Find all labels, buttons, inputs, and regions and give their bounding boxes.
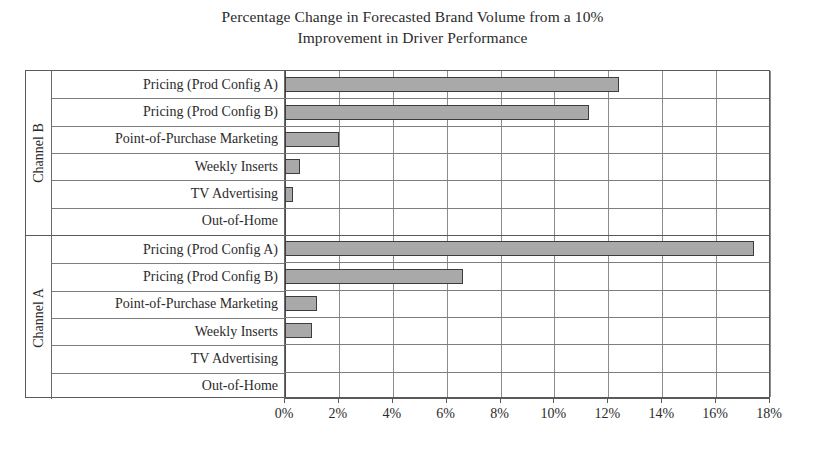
category-label: Point-of-Purchase Marketing	[115, 132, 278, 146]
row-separator	[52, 373, 284, 374]
category-labels-channel-a: Pricing (Prod Config A)Pricing (Prod Con…	[52, 235, 285, 399]
gridline-6%	[447, 71, 448, 397]
x-tick	[446, 398, 447, 403]
x-tick	[338, 398, 339, 403]
group-label-channel-a: Channel A	[26, 235, 52, 399]
row-separator	[52, 153, 284, 154]
category-label: Weekly Inserts	[195, 160, 278, 174]
row-separator	[52, 291, 284, 292]
x-tick-label: 4%	[382, 406, 401, 422]
x-tick-label: 10%	[541, 406, 567, 422]
gridline-2%	[339, 71, 340, 397]
x-tick	[661, 398, 662, 403]
x-tick-label: 0%	[275, 406, 294, 422]
category-label: Pricing (Prod Config A)	[143, 243, 278, 257]
row-separator	[285, 208, 769, 209]
x-tick-label: 2%	[329, 406, 348, 422]
gridline-14%	[662, 71, 663, 397]
row-separator	[52, 208, 284, 209]
group-label-text: Channel A	[31, 288, 47, 348]
x-axis-line	[284, 398, 770, 399]
bar	[285, 296, 317, 311]
group-label-text: Channel B	[31, 123, 47, 183]
x-tick	[715, 398, 716, 403]
row-separator	[285, 98, 769, 99]
bar	[285, 187, 293, 202]
x-tick-label: 6%	[436, 406, 455, 422]
row-separator	[285, 180, 769, 181]
chart-title-line-1: Percentage Change in Forecasted Brand Vo…	[0, 6, 825, 27]
row-separator	[52, 180, 284, 181]
gridline-0%	[285, 71, 286, 397]
row-separator	[52, 126, 284, 127]
x-tick-label: 18%	[756, 406, 782, 422]
chart-title-line-2: Improvement in Driver Performance	[0, 27, 825, 48]
x-tick-label: 12%	[594, 406, 620, 422]
gridline-4%	[393, 71, 394, 397]
gridline-12%	[608, 71, 609, 397]
category-labels-channel-b: Pricing (Prod Config A)Pricing (Prod Con…	[52, 71, 285, 235]
bar	[285, 241, 754, 256]
bar	[285, 323, 312, 338]
row-separator	[285, 290, 769, 291]
x-tick	[553, 398, 554, 403]
chart-plot-frame: Channel BChannel A Pricing (Prod Config …	[25, 70, 770, 398]
row-separator	[285, 153, 769, 154]
bar	[285, 77, 619, 92]
bar	[285, 269, 463, 284]
category-label: Point-of-Purchase Marketing	[115, 297, 278, 311]
row-separator	[285, 262, 769, 263]
x-tick	[500, 398, 501, 403]
x-tick	[607, 398, 608, 403]
x-tick	[769, 398, 770, 403]
category-label: Pricing (Prod Config B)	[143, 270, 278, 284]
plot-area	[285, 71, 769, 397]
category-label: Out-of-Home	[202, 214, 278, 228]
gridline-10%	[554, 71, 555, 397]
row-separator	[52, 263, 284, 264]
category-label: TV Advertising	[191, 352, 278, 366]
row-separator	[285, 317, 769, 318]
category-label: Out-of-Home	[202, 379, 278, 393]
row-separator	[52, 345, 284, 346]
gridline-16%	[716, 71, 717, 397]
gridline-18%	[770, 71, 771, 397]
category-label: Weekly Inserts	[195, 325, 278, 339]
row-separator	[285, 126, 769, 127]
row-separator	[52, 98, 284, 99]
category-label: Pricing (Prod Config A)	[143, 78, 278, 92]
x-tick-label: 16%	[702, 406, 728, 422]
category-label: Pricing (Prod Config B)	[143, 105, 278, 119]
x-tick-label: 14%	[648, 406, 674, 422]
x-tick	[392, 398, 393, 403]
x-tick	[284, 398, 285, 403]
bar	[285, 105, 589, 120]
row-separator	[285, 372, 769, 373]
x-tick-label: 8%	[490, 406, 509, 422]
row-separator	[285, 344, 769, 345]
x-axis: 0%2%4%6%8%10%12%14%16%18%	[284, 398, 770, 438]
group-label-channel-b: Channel B	[26, 71, 52, 235]
row-separator	[52, 318, 284, 319]
bar	[285, 159, 300, 174]
category-label: TV Advertising	[191, 187, 278, 201]
chart-title: Percentage Change in Forecasted Brand Vo…	[0, 6, 825, 48]
bar	[285, 132, 339, 147]
gridline-8%	[501, 71, 502, 397]
group-separator	[285, 235, 769, 236]
